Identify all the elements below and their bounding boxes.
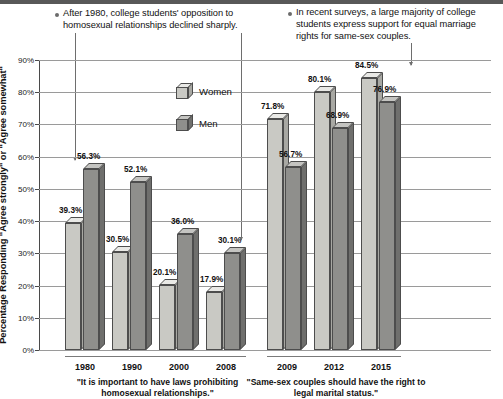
x-axis-label-2009: 2009 [277, 362, 297, 372]
bullet-dot-icon [55, 13, 59, 17]
legend-label-men: Men [199, 118, 218, 129]
x-axis-label-2000: 2000 [169, 362, 189, 372]
y-axis-tick-label: 20% [18, 281, 34, 290]
x-axis-label-2015: 2015 [371, 362, 391, 372]
header-rule [0, 0, 503, 4]
legend-cube-women-icon [176, 83, 193, 99]
x-axis-label-2012: 2012 [324, 362, 344, 372]
group-caption-1: "It is important to have laws prohibitin… [58, 377, 258, 399]
chart-plot-area: 0%10%20%30%40%50%60%70%80%90% 39.3%56.3%… [39, 60, 491, 350]
legend-item-women: Women [176, 83, 232, 99]
bullet-note-left-text: After 1980, college students' opposition… [63, 8, 273, 32]
y-axis-title-wrap: Percentage Responding "Agree strongly" o… [0, 60, 14, 350]
y-axis-tick-label: 0% [22, 346, 34, 355]
group-baseline [65, 356, 246, 357]
y-axis-tick-label: 50% [18, 184, 34, 193]
group-baseline [267, 356, 401, 357]
bullet-note-left: After 1980, college students' opposition… [55, 8, 273, 32]
y-axis-tick-label: 40% [18, 217, 34, 226]
x-axis-label-1990: 1990 [122, 362, 142, 372]
y-axis-tick-label: 80% [18, 88, 34, 97]
bullet-note-right-text: In recent surveys, a large majority of c… [296, 7, 500, 42]
legend-cube-men-icon [176, 115, 193, 131]
y-axis-tick-label: 90% [18, 56, 34, 65]
x-axis-label-2008: 2008 [216, 362, 236, 372]
y-axis-tick-label: 10% [18, 313, 34, 322]
legend-item-men: Men [176, 115, 218, 131]
group-caption-2: "Same-sex couples should have the right … [241, 377, 431, 399]
legend-label-women: Women [199, 86, 232, 97]
y-axis-tick-label: 70% [18, 120, 34, 129]
gridline [39, 350, 491, 351]
y-axis-tick-label: 60% [18, 152, 34, 161]
bullet-dot-icon [288, 12, 292, 16]
y-axis-title: Percentage Responding "Agree strongly" o… [0, 60, 8, 350]
chart-legend: Women Men [39, 60, 491, 350]
bullet-note-right: In recent surveys, a large majority of c… [288, 7, 500, 42]
y-axis-tick-label: 30% [18, 249, 34, 258]
y-axis-tick [35, 350, 39, 351]
x-axis-label-1980: 1980 [75, 362, 95, 372]
